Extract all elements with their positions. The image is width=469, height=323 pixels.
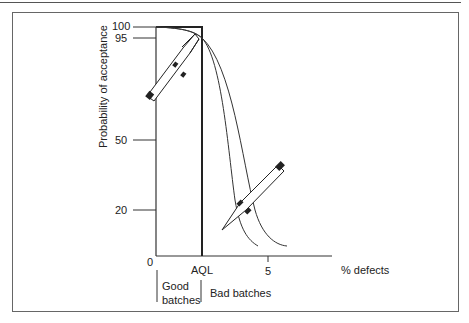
x-tick-5: 5 [265, 265, 271, 278]
x-tick-aql: AQL [191, 264, 213, 277]
arrow-up-icon [145, 34, 199, 101]
bad-batches-label: Bad batches [210, 287, 271, 300]
good-batches-label-2: batches [162, 294, 201, 307]
y-tick-50: 50 [115, 134, 127, 147]
y-tick-20: 20 [115, 204, 127, 217]
y-axis-label: Probability of acceptance [97, 18, 109, 148]
y-tick-95: 95 [115, 32, 127, 45]
oc-chart [0, 0, 469, 323]
x-axis-label: % defects [341, 264, 389, 277]
good-batches-label-1: Good [162, 280, 189, 293]
x-tick-0: 0 [147, 256, 153, 269]
